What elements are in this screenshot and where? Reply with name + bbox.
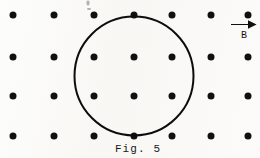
field-dot [245, 54, 252, 61]
field-dot [51, 54, 58, 61]
field-dot [10, 93, 17, 100]
field-dot [208, 93, 215, 100]
field-dot [51, 133, 58, 140]
field-dot [208, 133, 215, 140]
field-dot [208, 12, 215, 19]
field-dot [51, 93, 58, 100]
field-dot [51, 12, 58, 19]
field-dot [10, 133, 17, 140]
field-dot [91, 12, 98, 19]
scan-speck [87, 1, 90, 6]
scan-speck [87, 8, 91, 10]
magnetic-field-label: B [231, 31, 257, 41]
circular-loop [73, 15, 194, 136]
field-dot [91, 133, 98, 140]
field-dot [245, 133, 252, 140]
field-dot [169, 133, 176, 140]
field-dot [245, 12, 252, 19]
field-dot [10, 12, 17, 19]
field-dot [245, 93, 252, 100]
magnetic-field-arrow-group: B [231, 19, 257, 41]
arrow-right-icon [231, 19, 257, 30]
figure-canvas: B Fig. 5 [0, 0, 260, 158]
field-dot [208, 54, 215, 61]
field-dot [169, 12, 176, 19]
field-dot [10, 54, 17, 61]
figure-caption: Fig. 5 [115, 143, 161, 155]
